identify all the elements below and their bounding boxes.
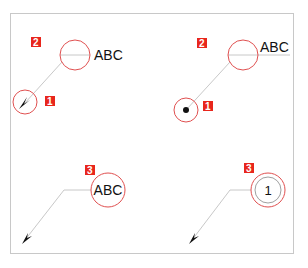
badge-1: 1 <box>45 96 55 107</box>
svg-text:2: 2 <box>33 37 39 48</box>
arrowhead-icon <box>189 233 199 244</box>
badge-2: 2 <box>197 38 207 49</box>
highlight-circle-arrowhead <box>13 90 37 114</box>
leader-line <box>24 62 62 104</box>
balloon-text: ABC <box>94 182 123 198</box>
panel-top-left: ABC 2 1 <box>13 37 123 114</box>
panel-bottom-right: 1 3 <box>189 163 285 244</box>
dot-terminator-icon <box>183 107 189 113</box>
leader-callout-diagram: ABC 2 1 ABC 2 1 ABC 3 <box>0 0 308 268</box>
badge-1: 1 <box>203 101 213 112</box>
svg-text:3: 3 <box>87 165 93 176</box>
svg-text:3: 3 <box>246 163 252 174</box>
panel-bottom-left: ABC 3 <box>22 165 125 244</box>
panel-top-right: ABC 2 1 <box>174 38 290 122</box>
svg-text:1: 1 <box>47 96 53 107</box>
badge-3: 3 <box>85 165 95 176</box>
badge-3: 3 <box>244 163 254 174</box>
leader-line <box>192 190 254 240</box>
balloon-text: 1 <box>264 183 271 198</box>
leader-label: ABC <box>94 47 123 63</box>
badge-2: 2 <box>31 37 41 48</box>
leader-line <box>25 190 91 240</box>
svg-text:1: 1 <box>205 101 211 112</box>
svg-text:2: 2 <box>199 38 205 49</box>
leader-label: ABC <box>260 39 289 55</box>
arrowhead-icon <box>22 233 32 244</box>
